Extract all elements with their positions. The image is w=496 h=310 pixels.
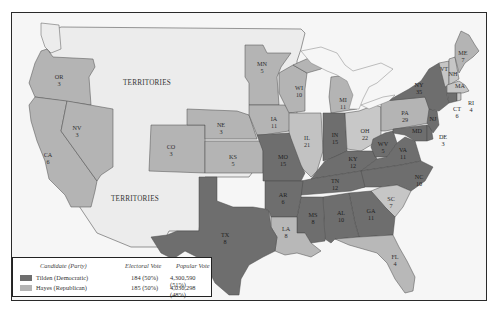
votes-ne: 3 [219,128,222,135]
votes-ri: 4 [469,106,472,113]
votes-ar: 6 [281,198,284,205]
label-pa: PA [401,109,409,116]
label-ny: NY [415,81,424,88]
votes-pa: 29 [402,116,408,123]
label-nh: NH [449,70,458,77]
votes-tn: 12 [332,184,338,191]
votes-de: 3 [441,140,444,147]
votes-oh: 22 [362,134,368,141]
label-wi: WI [295,84,303,91]
label-ks: KS [229,153,237,160]
votes-ga: 11 [368,214,374,221]
votes-ks: 5 [231,160,234,167]
votes-il: 21 [304,141,310,148]
votes-mo: 15 [280,160,286,167]
label-tn: TN [331,177,340,184]
legend-row-hayes: Hayes (Republican) 185 (50%) 4,036,298 (… [13,284,211,293]
label-de: DE [439,133,447,140]
votes-ky: 12 [350,162,356,169]
territories-label-south: TERRITORIES [111,195,159,203]
votes-ms: 8 [311,218,314,225]
votes-va: 11 [400,153,406,160]
label-ne: NE [217,121,225,128]
legend: Candidate (Party) Electoral Vote Popular… [12,257,212,297]
legend-row-tilden: Tilden (Democratic) 184 (50%) 4,300,590 … [13,274,211,283]
votes-al: 10 [338,216,344,223]
label-vt: VT [440,65,448,72]
legend-electoral: 185 (50%) [131,284,158,291]
state-ct [447,93,457,103]
votes-ct: 6 [455,112,458,119]
votes-co: 3 [169,150,172,157]
label-il: IL [304,134,310,141]
legend-candidate: Tilden (Democratic) [36,274,88,281]
legend-header-candidate: Candidate (Party) [40,262,87,269]
label-mn: MN [257,60,268,67]
label-or: OR [55,73,64,80]
votes-nc: 10 [416,180,422,187]
label-ma: MA [455,82,466,89]
label-al: AL [337,209,345,216]
label-la: LA [282,225,291,232]
label-mi: MI [339,96,347,103]
legend-electoral: 184 (50%) [131,274,158,281]
label-oh: OH [361,127,370,134]
label-ia: IA [271,115,278,122]
legend-candidate: Hayes (Republican) [36,284,87,291]
legend-header-electoral: Electoral Vote [125,262,161,269]
votes-sc: 7 [389,202,392,209]
label-ct: CT [453,105,461,112]
label-in: IN [332,131,339,138]
legend-popular: 4,036,298 (48%) [170,284,211,298]
votes-mi: 11 [340,103,346,110]
votes-ny: 35 [416,88,422,95]
votes-me: 7 [461,56,464,63]
label-ky: KY [349,155,358,162]
territories-label-north: TERRITORIES [123,79,171,87]
republican-swatch-icon [20,285,32,291]
votes-ia: 11 [271,122,277,129]
votes-wi: 10 [296,91,302,98]
label-md: MD [412,127,423,134]
label-ms: MS [309,211,319,218]
label-tx: TX [221,231,230,238]
label-nv: NV [73,124,82,131]
label-fl: FL [391,253,398,260]
votes-in: 15 [332,138,338,145]
label-va: VA [399,146,408,153]
state-ri [457,93,461,101]
votes-mn: 5 [260,67,263,74]
votes-wv: 5 [381,147,384,154]
votes-fl: 4 [393,260,396,267]
legend-header-popular: Popular Vote [176,262,210,269]
label-mo: MO [278,153,289,160]
votes-or: 3 [57,80,60,87]
label-me: ME [458,49,468,56]
state-co [149,125,205,173]
votes-nv: 3 [75,131,78,138]
label-wv: WV [378,140,389,147]
label-sc: SC [387,195,395,202]
votes-la: 8 [284,232,287,239]
label-ri: RI [468,99,474,106]
label-ga: GA [367,207,376,214]
votes-ca: 6 [46,158,49,165]
label-co: CO [167,143,176,150]
label-ar: AR [279,191,288,198]
votes-tx: 8 [223,238,226,245]
democratic-swatch-icon [20,275,32,281]
label-nc: NC [415,173,424,180]
label-nj: NJ [430,115,437,122]
label-ca: CA [44,151,53,158]
